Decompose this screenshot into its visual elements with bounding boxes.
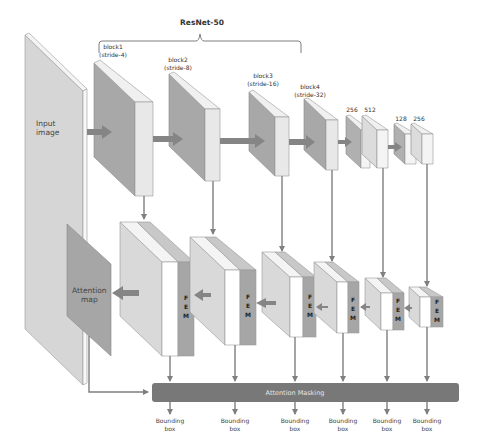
fem-to-masking-connectors [89, 327, 427, 392]
output-labels: Bounding box Bounding box Bounding box B… [156, 417, 442, 432]
fem-label: F [246, 293, 250, 300]
output-label: Bounding [281, 417, 310, 425]
fem-label: E [351, 305, 355, 312]
resnet-title: ResNet-50 [180, 18, 224, 27]
attention-masking-label: Attention Masking [266, 389, 325, 397]
fem-module-6: F E M [409, 287, 443, 327]
fem-module-4: F E M [314, 262, 359, 333]
block1-stride: (stride-4) [99, 51, 127, 58]
resnet-bracket: ResNet-50 [99, 18, 301, 53]
backbone-block-2: block2 (stride-8) [164, 56, 220, 181]
fem-label: E [435, 307, 439, 314]
fem-label: E [308, 302, 312, 309]
backbone-block-3: block3 (stride-16) [247, 72, 289, 176]
block1-label: block1 [103, 43, 123, 50]
fem-module-5: F E M [365, 278, 404, 330]
fem-label: M [350, 314, 356, 321]
fem-module-2: F E M [190, 237, 256, 345]
block4-stride: (stride-32) [294, 91, 326, 98]
fem-label: F [435, 298, 439, 305]
block3-label: block3 [253, 72, 273, 79]
fem-label: M [395, 315, 401, 322]
output-label: Bounding [156, 417, 185, 425]
output-arrows [170, 402, 427, 414]
extra-layer-256b-label: 256 [413, 115, 425, 122]
fem-label: M [183, 312, 189, 319]
extra-layer-128-label: 128 [395, 115, 407, 122]
extra-layer-512-label: 512 [364, 106, 376, 113]
output-label: box [290, 425, 301, 432]
output-label: box [382, 425, 393, 432]
output-label: box [422, 425, 433, 432]
block3-stride: (stride-16) [247, 80, 279, 87]
fem-module-1: F E M [120, 222, 194, 356]
attention-map-label-2: map [81, 295, 98, 304]
output-label: box [230, 425, 241, 432]
block4-label: block4 [300, 83, 320, 90]
fem-label: F [396, 297, 400, 304]
input-image-panel: Input image [25, 33, 87, 385]
architecture-diagram: ResNet-50 Input image block1 (stride-4) … [0, 0, 478, 448]
input-image-label-1: Input [36, 119, 55, 128]
output-label: Bounding [329, 417, 358, 425]
fem-label: F [351, 296, 355, 303]
fem-label: M [245, 311, 251, 318]
fem-label: M [434, 316, 440, 323]
fem-label: E [396, 306, 400, 313]
output-label: box [165, 425, 176, 432]
output-label: box [338, 425, 349, 432]
block2-stride: (stride-8) [164, 64, 192, 71]
fem-module-3: F E M [262, 252, 316, 337]
extra-layer-256-label: 256 [346, 106, 358, 113]
attention-map-label-1: Attention [72, 286, 107, 295]
output-label: Bounding [373, 417, 402, 425]
backbone-block-1: block1 (stride-4) [94, 43, 153, 196]
fem-label: E [246, 302, 250, 309]
output-label: Bounding [221, 417, 250, 425]
input-image-label-2: image [36, 128, 60, 137]
backbone-block-4: block4 (stride-32) [294, 83, 338, 170]
attention-masking-bar: Attention Masking [152, 383, 459, 402]
fem-label: E [184, 303, 188, 310]
output-label: Bounding [413, 417, 442, 425]
block2-label: block2 [168, 56, 188, 63]
fem-label: F [184, 294, 188, 301]
extra-layer-256b: 256 [411, 115, 433, 164]
fem-label: F [308, 293, 312, 300]
fem-label: M [307, 311, 313, 318]
